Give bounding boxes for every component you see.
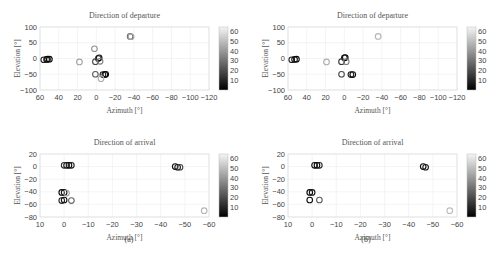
x-tick-label: −20: [109, 93, 122, 102]
panel-b-departure: Direction of departure6040200−20−40−60−8…: [248, 0, 496, 127]
x-tick-label: −60: [146, 93, 159, 102]
x-tick-label: −50: [426, 220, 439, 229]
x-tick-label: −20: [106, 220, 119, 229]
x-tick-label: 10: [284, 220, 292, 229]
x-tick-label: 0: [310, 220, 314, 229]
y-axis-label: Elevation [°]: [13, 166, 22, 205]
x-tick-label: −80: [413, 93, 426, 102]
colorbar-tick-label: 50: [478, 37, 486, 46]
x-tick-label: 40: [303, 93, 311, 102]
colorbar-tick-label: 10: [478, 203, 486, 212]
x-tick-label: −120: [201, 93, 218, 102]
plot-frame: [288, 154, 457, 217]
panel-a-departure: Direction of departure6040200−20−40−60−8…: [0, 0, 250, 127]
y-tick-label: 50: [277, 38, 285, 47]
colorbar-tick-label: 40: [230, 47, 238, 56]
x-axis-label: Azimuth [°]: [354, 106, 390, 115]
colorbar-tick-label: 40: [478, 174, 486, 183]
x-tick-label: −60: [451, 220, 464, 229]
x-tick-label: −80: [165, 93, 178, 102]
x-tick-label: −100: [430, 93, 447, 102]
y-tick-label: 50: [29, 38, 37, 47]
x-tick-label: −100: [182, 93, 199, 102]
grid: [288, 27, 457, 90]
colorbar-tick-label: 10: [230, 203, 238, 212]
colorbar-tick-label: 50: [478, 164, 486, 173]
subfigure-label-a: (a): [114, 235, 144, 244]
colorbar: [467, 27, 476, 90]
y-tick-label: 0: [281, 54, 285, 63]
colorbar-tick-label: 20: [230, 193, 238, 202]
x-tick-label: −10: [82, 220, 95, 229]
scatter-chart: Direction of departure6040200−20−40−60−8…: [248, 0, 496, 127]
x-tick-label: 0: [342, 93, 346, 102]
colorbar-tick-label: 30: [230, 56, 238, 65]
colorbar-tick-label: 10: [230, 76, 238, 85]
grid: [40, 154, 209, 217]
y-tick-label: −40: [272, 187, 285, 196]
colorbar-tick-label: 20: [478, 66, 486, 75]
data-point: [307, 197, 313, 203]
x-tick-label: 0: [62, 220, 66, 229]
x-tick-label: −60: [203, 220, 216, 229]
x-tick-label: −20: [354, 220, 367, 229]
chart-title: Direction of departure: [337, 11, 409, 20]
x-tick-label: 60: [284, 93, 292, 102]
colorbar-tick-label: 40: [478, 47, 486, 56]
colorbar-tick-label: 50: [230, 164, 238, 173]
y-tick-label: −50: [272, 70, 285, 79]
y-tick-label: 20: [277, 150, 285, 159]
plot-frame: [40, 154, 209, 217]
y-tick-label: −80: [24, 213, 37, 222]
y-tick-label: −20: [272, 175, 285, 184]
colorbar-tick-label: 60: [230, 154, 238, 163]
data-point: [324, 59, 330, 65]
data-points: [289, 34, 381, 78]
x-tick-label: −40: [128, 93, 141, 102]
data-point: [201, 208, 207, 214]
y-tick-label: −100: [20, 86, 37, 95]
colorbar-tick-label: 30: [230, 183, 238, 192]
subfigure-label-b: (b): [351, 235, 381, 244]
colorbar-tick-label: 30: [478, 56, 486, 65]
colorbar: [219, 27, 228, 90]
scatter-chart: Direction of departure6040200−20−40−60−8…: [0, 0, 250, 127]
colorbar-tick-label: 40: [230, 174, 238, 183]
data-point: [447, 208, 453, 214]
x-tick-label: −40: [154, 220, 167, 229]
y-tick-label: 20: [29, 150, 37, 159]
x-tick-label: 20: [73, 93, 81, 102]
y-tick-label: 0: [281, 162, 285, 171]
colorbar-tick-label: 60: [230, 27, 238, 36]
x-tick-label: −40: [376, 93, 389, 102]
data-points: [307, 163, 453, 214]
y-tick-label: −50: [24, 70, 37, 79]
y-tick-label: −40: [24, 187, 37, 196]
y-tick-label: −60: [24, 200, 37, 209]
y-tick-label: −20: [24, 175, 37, 184]
x-tick-label: −120: [449, 93, 466, 102]
y-tick-label: −80: [272, 213, 285, 222]
grid: [40, 27, 209, 90]
y-tick-label: 100: [24, 23, 37, 32]
colorbar-tick-label: 60: [478, 154, 486, 163]
colorbar: [219, 154, 228, 217]
x-tick-label: −40: [402, 220, 415, 229]
y-axis-label: Elevation [°]: [261, 166, 270, 205]
x-tick-label: 10: [36, 220, 44, 229]
data-point: [69, 198, 75, 204]
y-tick-label: 0: [33, 54, 37, 63]
colorbar-tick-label: 20: [230, 66, 238, 75]
x-tick-label: −10: [330, 220, 343, 229]
x-tick-label: −30: [378, 220, 391, 229]
x-tick-label: 60: [36, 93, 44, 102]
x-tick-label: −20: [357, 93, 370, 102]
chart-title: Direction of departure: [89, 11, 161, 20]
y-tick-label: −60: [272, 200, 285, 209]
colorbar-tick-label: 20: [478, 193, 486, 202]
x-tick-label: −50: [178, 220, 191, 229]
y-tick-label: −100: [268, 86, 285, 95]
x-tick-label: 0: [94, 93, 98, 102]
colorbar-tick-label: 60: [478, 27, 486, 36]
x-axis-label: Azimuth [°]: [106, 106, 142, 115]
